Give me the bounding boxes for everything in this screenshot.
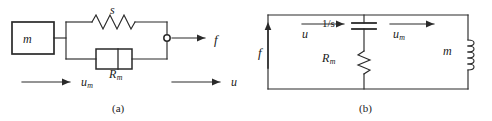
force-arrow-head bbox=[197, 35, 205, 42]
spring-label: s bbox=[110, 4, 115, 16]
resistor-element bbox=[358, 51, 370, 74]
resistor-label-subscript: m bbox=[330, 57, 336, 66]
caption-panel-a: (a) bbox=[112, 102, 124, 114]
spring-element bbox=[92, 15, 135, 29]
panel-a-mechanical-diagram: m s Rm f um u (a) bbox=[0, 0, 246, 121]
damper-element bbox=[96, 49, 132, 69]
velocity-mass-label-subscript: m bbox=[87, 81, 93, 90]
current-arrow-input-head bbox=[336, 21, 344, 28]
velocity-arrow-mass-head bbox=[62, 79, 70, 86]
inductor-element bbox=[468, 40, 474, 70]
mass-block bbox=[12, 22, 54, 54]
source-label: f bbox=[258, 46, 262, 59]
inductor-label: m bbox=[443, 45, 452, 57]
figure-root: m s Rm f um u (a) bbox=[0, 0, 492, 121]
inductor-loop-2 bbox=[468, 46, 474, 52]
force-output-label: f bbox=[214, 33, 218, 46]
panel-b-circuit-diagram: f u 1/s Rm um m (b) bbox=[246, 0, 492, 121]
velocity-output-label: u bbox=[231, 76, 237, 88]
inductor-loop-5 bbox=[468, 64, 474, 70]
inductor-loop-3 bbox=[468, 52, 474, 58]
output-terminal-node bbox=[164, 35, 170, 41]
current-mass-label-subscript: m bbox=[399, 33, 405, 42]
velocity-mass-label: um bbox=[81, 76, 93, 88]
current-input-label: u bbox=[302, 28, 308, 40]
damper-label: Rm bbox=[109, 68, 122, 80]
inductor-loop-4 bbox=[468, 58, 474, 64]
damper-label-subscript: m bbox=[117, 73, 123, 82]
damper-label-base: R bbox=[109, 67, 116, 81]
current-mass-label: um bbox=[393, 28, 405, 40]
inductor-loop-1 bbox=[468, 40, 474, 46]
resistor-label: Rm bbox=[322, 52, 335, 64]
capacitor-label: 1/s bbox=[322, 18, 335, 29]
current-arrow-mass-head bbox=[426, 21, 434, 28]
current-source-arrow-head bbox=[265, 22, 272, 30]
resistor-label-base: R bbox=[322, 51, 329, 65]
mass-label: m bbox=[23, 33, 32, 45]
caption-panel-b: (b) bbox=[359, 102, 372, 114]
velocity-arrow-output-head bbox=[212, 79, 220, 86]
